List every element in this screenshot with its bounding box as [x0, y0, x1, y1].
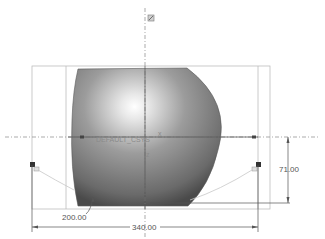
radius-dimension-value[interactable]: 200.00 [62, 213, 87, 222]
drag-handle-left[interactable] [30, 162, 39, 171]
height-dimension-value[interactable]: 71.00 [279, 165, 300, 174]
model-viewport[interactable]: DEFAULT_CSYS x z 340.00 71.00 [0, 0, 325, 239]
csys-label: DEFAULT_CSYS [96, 136, 150, 144]
width-dimension-value[interactable]: 340.00 [132, 223, 157, 232]
width-dimension[interactable]: 340.00 [32, 223, 258, 232]
axis-marker-left [80, 136, 84, 139]
height-dimension[interactable]: 71.00 [279, 137, 300, 203]
handle-leader-left [38, 170, 74, 190]
axis-marker-right [252, 136, 256, 139]
view-orientation-icon[interactable] [148, 15, 154, 21]
drag-handle-right[interactable] [252, 162, 261, 171]
x-axis-label: x [158, 130, 162, 137]
z-axis-label: z [146, 151, 150, 158]
